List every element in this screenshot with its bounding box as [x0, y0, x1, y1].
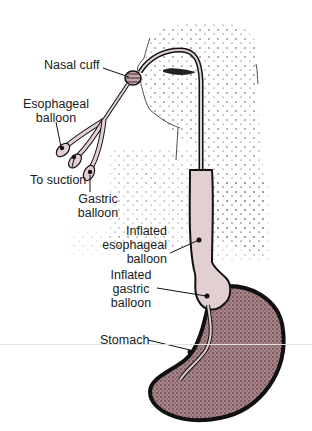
label-esophageal-balloon: Esophageal balloon — [13, 97, 99, 125]
label-nasal-cuff: Nasal cuff — [44, 58, 99, 72]
balloon-tamponade-diagram: Nasal cuff Esophageal balloon To suction… — [0, 0, 312, 431]
label-to-suction: To suction — [30, 173, 86, 187]
label-gastric-balloon: Gastric balloon — [68, 192, 128, 220]
label-stomach: Stomach — [100, 333, 149, 347]
label-inflated-esophageal-balloon: Inflated esophageal balloon — [100, 224, 167, 266]
scan-artifact-line — [0, 344, 312, 345]
nasal-cuff — [125, 71, 141, 85]
label-inflated-gastric-balloon: Inflated gastric balloon — [105, 268, 157, 310]
